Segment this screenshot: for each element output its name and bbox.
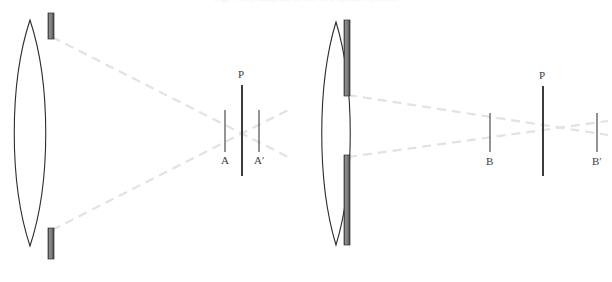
optics-figure: Fig. 1 Ray diagram of the two optical sy… bbox=[0, 0, 612, 282]
marker-label-B: B bbox=[486, 156, 493, 167]
upper-slit-bar-right bbox=[344, 20, 350, 96]
ray-upper-right bbox=[348, 95, 608, 135]
marker-label-A-prime: A′ bbox=[254, 155, 264, 166]
ray-upper-left bbox=[52, 37, 290, 158]
upper-stop-bar-left bbox=[48, 13, 54, 39]
right-system bbox=[322, 20, 608, 245]
ray-diagram-canvas bbox=[0, 0, 612, 282]
lower-stop-bar-left bbox=[48, 228, 54, 259]
plane-label-P-right: P bbox=[539, 70, 545, 81]
lower-slit-bar-right bbox=[344, 155, 350, 245]
ray-lower-right bbox=[348, 121, 608, 157]
plane-label-P-left: P bbox=[238, 69, 244, 80]
left-system bbox=[14, 13, 292, 259]
marker-label-B-prime: B′ bbox=[592, 156, 602, 167]
marker-label-A: A bbox=[221, 155, 229, 166]
ray-lower-left bbox=[52, 108, 292, 230]
biconvex-lens-left bbox=[14, 20, 46, 246]
